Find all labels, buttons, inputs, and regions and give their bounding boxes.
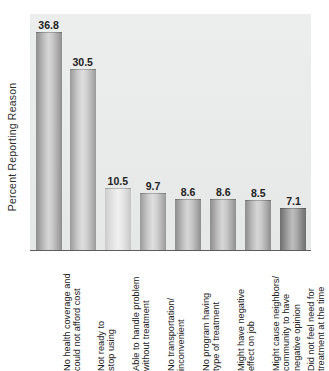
x-axis-category-labels: No health coverage and could not afford … [30,254,311,371]
bar-value-label: 30.5 [72,56,92,68]
bar-8: 7.1 [280,209,306,251]
bar-value-label: 8.5 [251,187,266,199]
category-label-text: No health coverage and could not afford … [62,273,83,371]
bar-rect [140,193,166,251]
category-label-text: No transportation/ inconvenient [166,298,187,371]
bar-rect [70,69,96,251]
bar-2: 30.5 [70,70,96,251]
bar-value-label: 8.6 [181,186,196,198]
bar-rect [175,199,201,251]
bar-value-label: 7.1 [286,195,301,207]
bar-value-label: 8.6 [216,186,231,198]
category-label-text: No program having type of treatment [201,293,222,371]
bar-rect [210,199,236,251]
bar-4: 9.7 [140,194,166,251]
x-axis-line [30,250,311,251]
bar-rect [36,32,62,251]
y-axis-title: Percent Reporting Reason [6,62,22,232]
bar-6: 8.6 [210,200,236,251]
category-label-text: Might cause neighbors/ community to have… [271,276,302,371]
category-label-text: Not ready to stop using [96,321,117,371]
bar-value-label: 9.7 [146,180,161,192]
bar-value-label: 36.8 [38,19,58,31]
bar-7: 8.5 [245,201,271,251]
bar-rect [245,200,271,251]
bar-value-label: 10.5 [108,175,128,187]
category-label-text: Able to handle problem without treatment [131,277,152,371]
bar-rect [105,188,131,251]
category-label-8: Did not feel need for treatment at the t… [306,254,329,371]
bar-5: 8.6 [175,200,201,251]
category-label-text: Did not feel need for treatment at the t… [306,287,327,371]
plot-area: 36.830.510.59.78.68.68.57.1 [30,14,311,251]
bar-rect [280,208,306,251]
bar-3: 10.5 [105,189,131,251]
bar-1: 36.8 [36,33,62,251]
category-label-text: Might have negative effect on job [236,289,257,371]
